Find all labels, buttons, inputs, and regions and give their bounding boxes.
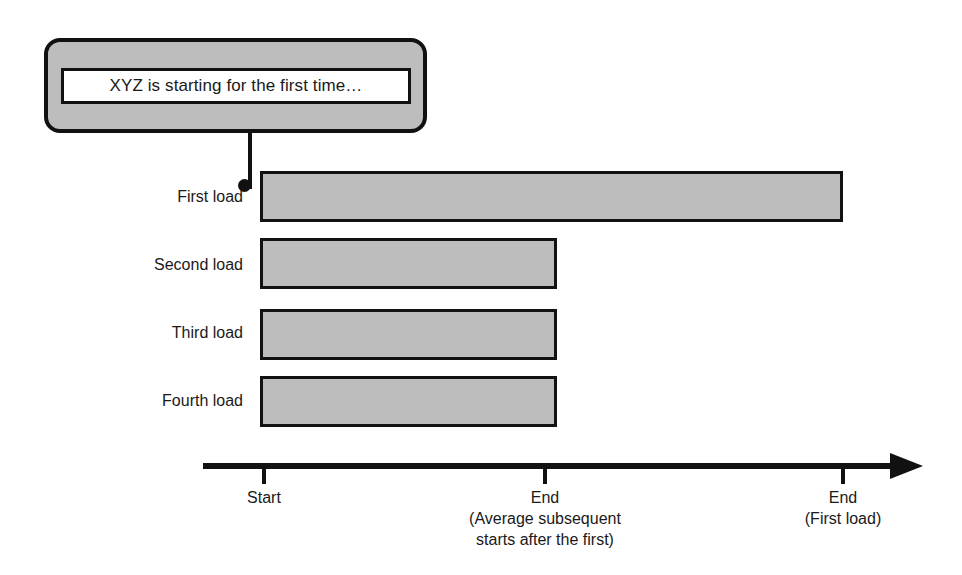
axis-label-line: End bbox=[805, 487, 881, 508]
axis-tick-2 bbox=[841, 469, 845, 484]
axis-label-line: (First load) bbox=[805, 508, 881, 529]
bar-third-load bbox=[260, 309, 557, 360]
time-axis-line bbox=[203, 463, 897, 469]
time-axis-arrowhead-icon bbox=[890, 453, 923, 479]
axis-label-line: End bbox=[469, 487, 621, 508]
axis-label-1: End(Average subsequentstarts after the f… bbox=[469, 487, 621, 550]
axis-label-2: End(First load) bbox=[805, 487, 881, 529]
diagram-canvas: XYZ is starting for the first time… Firs… bbox=[0, 0, 962, 575]
axis-label-line: Start bbox=[247, 487, 281, 508]
axis-label-line: (Average subsequent bbox=[469, 508, 621, 529]
bar-label-text: Third load bbox=[172, 324, 243, 342]
axis-label-line: starts after the first) bbox=[469, 529, 621, 550]
bar-label-text: Fourth load bbox=[162, 392, 243, 410]
axis-tick-0 bbox=[262, 469, 266, 484]
callout-balloon: XYZ is starting for the first time… bbox=[44, 38, 427, 133]
bar-first-load bbox=[260, 171, 843, 222]
bar-second-load bbox=[260, 238, 557, 289]
axis-label-0: Start bbox=[247, 487, 281, 508]
callout-inner-panel: XYZ is starting for the first time… bbox=[61, 68, 411, 104]
callout-message: XYZ is starting for the first time… bbox=[110, 76, 363, 96]
bar-label-text: First load bbox=[177, 188, 243, 206]
axis-tick-1 bbox=[543, 469, 547, 484]
bar-label-text: Second load bbox=[154, 256, 243, 274]
bar-fourth-load bbox=[260, 376, 557, 427]
